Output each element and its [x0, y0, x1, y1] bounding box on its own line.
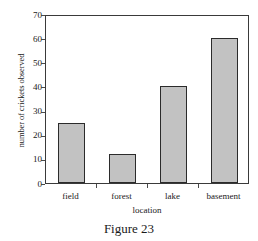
x-axis-title: location	[45, 204, 249, 216]
plot-area	[46, 16, 248, 183]
y-axis-tick-label: 70	[20, 11, 42, 20]
x-axis-tick-label: basement	[198, 190, 249, 202]
y-axis-tick-labels: 010203040506070	[18, 0, 42, 241]
x-axis-tick-mark	[147, 184, 148, 188]
bar	[58, 123, 85, 183]
x-axis-tick-marks	[0, 184, 258, 189]
plot-frame	[45, 15, 249, 184]
figure-container: number of crickets observed 010203040506…	[0, 0, 258, 241]
y-axis-tick-label: 10	[20, 155, 42, 164]
x-axis-tick-mark	[198, 184, 199, 188]
x-axis-tick-label: field	[45, 190, 96, 202]
y-axis-tick-label: 50	[20, 59, 42, 68]
x-axis-tick-labels: fieldforestlakebasement	[45, 190, 249, 204]
y-axis-tick-label: 30	[20, 107, 42, 116]
y-axis-tick-label: 60	[20, 35, 42, 44]
y-axis-tick-label: 20	[20, 131, 42, 140]
y-axis-tick-label: 40	[20, 83, 42, 92]
x-axis-tick-label: lake	[147, 190, 198, 202]
figure-caption: Figure 23	[0, 220, 258, 237]
x-axis-tick-mark	[96, 184, 97, 188]
bar	[160, 86, 187, 183]
bar	[109, 154, 136, 183]
bar	[211, 38, 238, 183]
x-axis-tick-label: forest	[96, 190, 147, 202]
